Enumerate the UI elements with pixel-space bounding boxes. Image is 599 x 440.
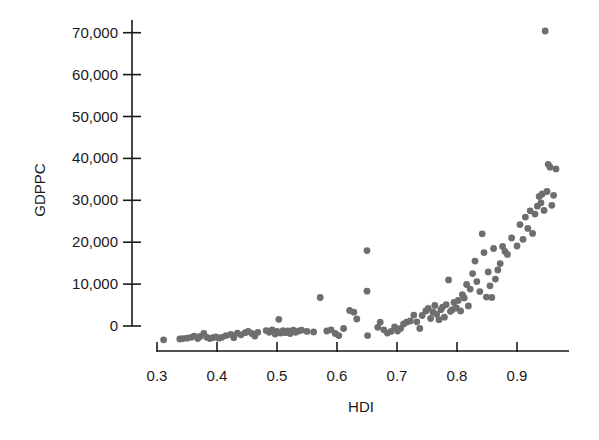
data-point (416, 325, 423, 332)
data-point (547, 164, 554, 171)
x-tick-label: 0.5 (267, 367, 288, 384)
y-tick-label: 30,000 (72, 191, 118, 208)
data-point (494, 267, 501, 274)
data-point (497, 260, 504, 267)
data-point (517, 221, 524, 228)
y-axis: 010,00020,00030,00040,00050,00060,00070,… (72, 20, 141, 334)
data-points (160, 28, 559, 344)
x-tick-label: 0.7 (387, 367, 408, 384)
data-point (340, 325, 347, 332)
data-point (350, 309, 357, 316)
data-point (472, 258, 479, 265)
data-point (310, 329, 317, 336)
data-point (553, 166, 560, 173)
y-axis-title: GDPPC (31, 163, 48, 217)
data-point (473, 278, 480, 285)
data-point (514, 243, 521, 250)
data-point (479, 230, 486, 237)
x-axis: 0.30.40.50.60.70.80.9 (147, 342, 569, 384)
y-tick-label: 0 (110, 317, 118, 334)
data-point (254, 329, 261, 336)
data-point (353, 316, 360, 323)
data-point (488, 294, 495, 301)
data-point (443, 301, 450, 308)
data-point (160, 336, 167, 343)
y-tick-label: 50,000 (72, 108, 118, 125)
data-point (364, 332, 371, 339)
data-point (529, 230, 536, 237)
data-point (532, 211, 539, 218)
data-point (508, 235, 515, 242)
x-tick-label: 0.9 (507, 367, 528, 384)
data-point (407, 318, 414, 325)
x-tick-label: 0.4 (207, 367, 228, 384)
data-point (504, 251, 511, 258)
data-point (542, 28, 549, 35)
x-tick-label: 0.3 (147, 367, 168, 384)
data-point (520, 236, 527, 243)
data-point (413, 318, 420, 325)
data-point (485, 269, 492, 276)
data-point (538, 199, 545, 206)
data-point (431, 302, 438, 309)
data-point (275, 316, 282, 323)
data-point (544, 188, 551, 195)
data-point (445, 277, 452, 284)
data-point (490, 245, 497, 252)
data-point (465, 303, 472, 310)
data-point (467, 286, 474, 293)
data-point (548, 202, 555, 209)
data-point (541, 207, 548, 214)
data-point (492, 276, 499, 283)
data-point (427, 315, 434, 322)
y-tick-label: 40,000 (72, 149, 118, 166)
data-point (304, 328, 311, 335)
data-point (481, 249, 488, 256)
data-point (550, 192, 557, 199)
data-point (476, 288, 483, 295)
data-point (457, 308, 464, 315)
x-axis-title: HDI (348, 398, 374, 415)
data-point (364, 288, 371, 295)
data-point (469, 270, 476, 277)
data-point (487, 282, 494, 289)
data-point (317, 294, 324, 301)
data-point (455, 297, 462, 304)
scatter-chart: 010,00020,00030,00040,00050,00060,00070,… (0, 0, 599, 440)
y-tick-label: 20,000 (72, 233, 118, 250)
data-point (377, 319, 384, 326)
data-point (335, 332, 342, 339)
y-tick-label: 60,000 (72, 66, 118, 83)
data-point (461, 295, 468, 302)
y-tick-label: 70,000 (72, 24, 118, 41)
y-tick-label: 10,000 (72, 275, 118, 292)
x-tick-label: 0.6 (327, 367, 348, 384)
data-point (524, 225, 531, 232)
x-tick-label: 0.8 (447, 367, 468, 384)
data-point (364, 247, 371, 254)
data-point (441, 314, 448, 321)
data-point (522, 214, 529, 221)
data-point (410, 312, 417, 319)
